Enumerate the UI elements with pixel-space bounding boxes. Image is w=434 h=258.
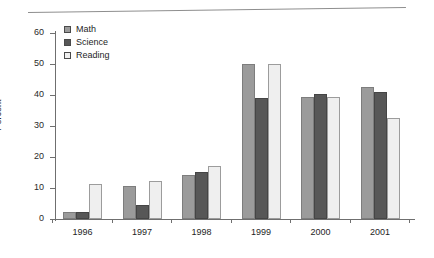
bar-science-2000	[314, 94, 327, 219]
bar-reading-1996	[89, 184, 102, 219]
y-axis-tick	[50, 95, 55, 96]
bar-group	[301, 33, 340, 219]
bar-science-1997	[136, 205, 149, 219]
bar-group	[63, 33, 102, 219]
y-axis-tick-label: 20	[20, 152, 44, 161]
bar-group	[123, 33, 162, 219]
y-axis-tick	[50, 157, 55, 158]
y-axis-title: Percent	[0, 99, 3, 130]
legend-swatch-math	[64, 26, 71, 33]
x-axis-tick	[171, 219, 172, 223]
bar-math-1999	[242, 64, 255, 219]
bar-reading-1997	[149, 181, 162, 219]
x-axis-tick-end	[409, 219, 410, 223]
y-axis-tick-label: 30	[20, 121, 44, 130]
y-axis-tick-label: 10	[20, 183, 44, 192]
y-axis-tick-label: 0	[20, 214, 44, 223]
x-axis-tick-label: 2001	[350, 228, 410, 237]
bar-group	[242, 33, 281, 219]
y-axis-tick-label: 50	[20, 59, 44, 68]
y-axis-line	[55, 31, 56, 221]
bar-math-1997	[123, 186, 136, 219]
x-axis-tick	[350, 219, 351, 223]
bar-science-1996	[76, 212, 89, 219]
y-axis-tick	[50, 33, 55, 34]
y-axis-tick	[50, 188, 55, 189]
x-axis-line	[55, 219, 415, 220]
bar-chart-figure: 0102030405060 Percent Math Science Readi…	[0, 0, 434, 258]
bar-math-1998	[182, 175, 195, 219]
y-axis-tick-label: 60	[20, 28, 44, 37]
bar-group	[182, 33, 221, 219]
bar-math-2000	[301, 97, 314, 219]
x-axis-tick	[231, 219, 232, 223]
bar-reading-1998	[208, 166, 221, 219]
bar-reading-2001	[387, 118, 400, 219]
bar-science-1998	[195, 172, 208, 219]
x-axis-tick-label: 1996	[53, 228, 113, 237]
bar-math-2001	[361, 87, 374, 219]
x-axis-tick	[112, 219, 113, 223]
bar-reading-2000	[327, 97, 340, 219]
x-axis-tick	[52, 219, 53, 223]
bar-reading-1999	[268, 64, 281, 219]
y-axis-tick-label: 40	[20, 90, 44, 99]
bar-science-1999	[255, 98, 268, 219]
bar-group	[361, 33, 400, 219]
y-axis-tick-labels: 0102030405060	[20, 0, 44, 258]
x-axis-tick-label: 2000	[291, 228, 351, 237]
bar-math-1996	[63, 212, 76, 219]
top-divider-rule	[28, 7, 406, 13]
x-axis-tick-label: 1997	[112, 228, 172, 237]
x-axis-tick-label: 1999	[231, 228, 291, 237]
bar-science-2001	[374, 92, 387, 219]
y-axis-tick	[50, 64, 55, 65]
x-axis-tick	[290, 219, 291, 223]
x-axis-tick-label: 1998	[172, 228, 232, 237]
y-axis-tick	[50, 126, 55, 127]
